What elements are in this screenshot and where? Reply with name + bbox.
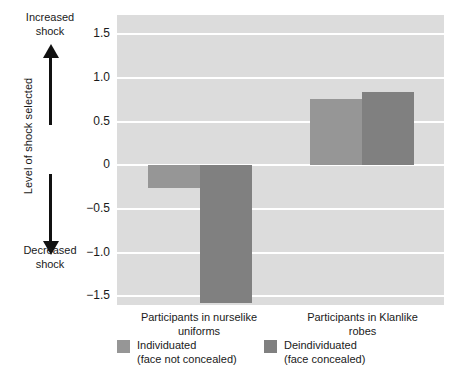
category-label-klanlike: Participants in Klanlike robes <box>281 310 444 338</box>
legend-swatch-deindividuated <box>264 340 277 353</box>
y-tick-label: −1.0 <box>70 245 110 259</box>
legend-label-deindividuated: Deindividuated (face concealed) <box>284 338 365 366</box>
increased-shock-line1: Increased <box>0 10 100 24</box>
bar-individuated-group-0 <box>148 165 200 188</box>
category-label-line1: Participants in Klanlike <box>281 310 444 324</box>
legend-swatch-individuated <box>117 340 130 353</box>
chart-plot-area <box>117 15 444 305</box>
category-label-nurselike: Participants in nurselike uniforms <box>117 310 281 338</box>
y-tick-label: 1.5 <box>70 26 110 40</box>
legend-label-line1: Individuated <box>137 338 237 352</box>
category-label-line1: Participants in nurselike <box>117 310 281 324</box>
arrow-down-shaft <box>49 174 52 242</box>
gridline <box>117 208 444 210</box>
gridline <box>117 33 444 35</box>
category-label-line2: uniforms <box>117 324 281 338</box>
gridline <box>117 295 444 297</box>
bar-deindividuated-group-1 <box>362 92 414 165</box>
y-axis-title: Level of shock selected <box>22 46 34 226</box>
legend-item-deindividuated: Deindividuated (face concealed) <box>264 338 449 368</box>
y-tick-label: 0.5 <box>70 114 110 128</box>
legend-label-line2: (face concealed) <box>284 352 365 366</box>
bar-individuated-group-1 <box>310 99 362 165</box>
y-tick-label: −1.5 <box>70 288 110 302</box>
chart-legend: Individuated (face not concealed) Deindi… <box>117 338 447 368</box>
legend-label-line1: Deindividuated <box>284 338 365 352</box>
bar-deindividuated-group-0 <box>200 165 252 303</box>
gridline <box>117 77 444 79</box>
category-label-line2: robes <box>281 324 444 338</box>
legend-item-individuated: Individuated (face not concealed) <box>117 338 277 368</box>
arrow-up-shaft <box>49 57 52 125</box>
y-tick-label: 1.0 <box>70 70 110 84</box>
legend-label-line2: (face not concealed) <box>137 352 237 366</box>
gridline <box>117 252 444 254</box>
y-tick-label: 0 <box>70 157 110 171</box>
y-tick-label: −0.5 <box>70 201 110 215</box>
decreased-shock-line2: shock <box>0 257 100 271</box>
legend-label-individuated: Individuated (face not concealed) <box>137 338 237 366</box>
arrow-up-icon <box>43 44 59 58</box>
